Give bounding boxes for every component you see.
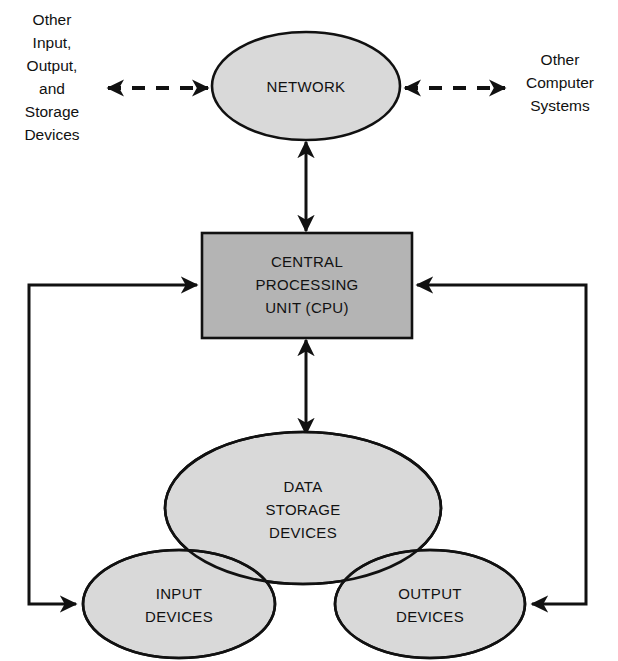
label-other-io-storage: Other Input, Output, and Storage Devices <box>24 11 79 143</box>
cpu-label-line-2: PROCESSING <box>255 276 358 293</box>
other-systems-line-3: Systems <box>530 97 590 114</box>
output-devices-label-line-1: OUTPUT <box>398 585 461 602</box>
data-storage-label-line-1: DATA <box>284 478 323 495</box>
input-devices-label-line-2: DEVICES <box>145 608 213 625</box>
diagram-canvas: NETWORK CENTRAL PROCESSING UNIT (CPU) DA… <box>0 0 618 661</box>
network-label: NETWORK <box>267 78 346 95</box>
other-systems-line-1: Other <box>541 51 580 68</box>
cpu-label-line-1: CENTRAL <box>271 253 343 270</box>
output-devices-label-line-2: DEVICES <box>396 608 464 625</box>
label-other-computer-systems: Other Computer Systems <box>526 51 594 114</box>
other-io-line-4: and <box>39 80 65 97</box>
other-systems-line-2: Computer <box>526 74 594 91</box>
other-io-line-6: Devices <box>24 126 79 143</box>
input-devices-label-line-1: INPUT <box>156 585 203 602</box>
cpu-label-line-3: UNIT (CPU) <box>265 299 349 316</box>
other-io-line-3: Output, <box>27 57 78 74</box>
other-io-line-1: Other <box>33 11 72 28</box>
node-cpu[interactable]: CENTRAL PROCESSING UNIT (CPU) <box>202 233 412 338</box>
other-io-line-5: Storage <box>25 103 79 120</box>
diagram-svg: NETWORK CENTRAL PROCESSING UNIT (CPU) DA… <box>0 0 618 661</box>
data-storage-label-line-2: STORAGE <box>265 501 340 518</box>
node-network[interactable]: NETWORK <box>212 32 400 140</box>
other-io-line-2: Input, <box>33 34 72 51</box>
data-storage-label-line-3: DEVICES <box>269 524 337 541</box>
